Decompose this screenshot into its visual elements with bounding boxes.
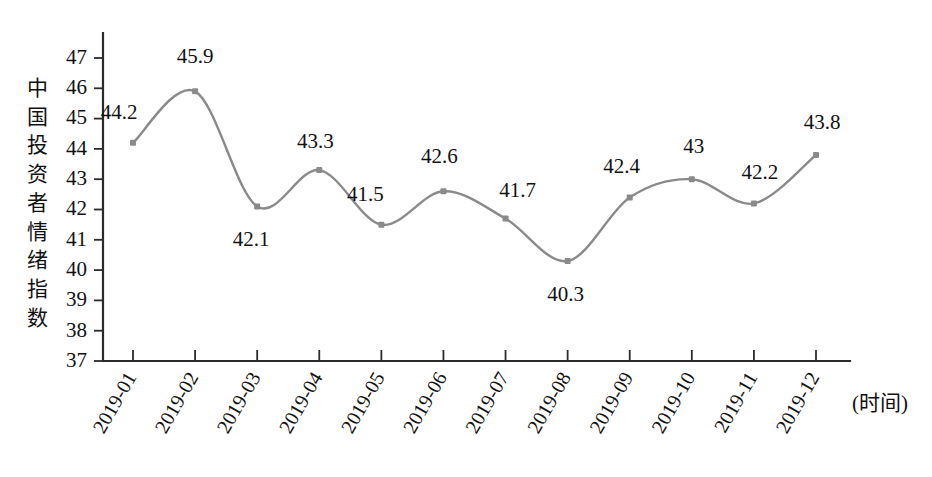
- x-tick-label: 2019-12: [771, 368, 823, 437]
- data-point-marker[interactable]: [316, 167, 322, 173]
- y-axis-title-char: 中: [27, 76, 48, 100]
- data-point-label: 43.8: [804, 110, 841, 134]
- data-point-label: 40.3: [547, 282, 584, 306]
- data-point-marker[interactable]: [192, 88, 198, 94]
- data-point-marker[interactable]: [503, 216, 509, 222]
- data-point-marker[interactable]: [813, 152, 819, 158]
- chart-container: 3738394041424344454647 中国投资者情绪指数 2019-01…: [0, 0, 932, 477]
- data-point-marker[interactable]: [565, 258, 571, 264]
- y-tick-label: 44: [66, 136, 88, 160]
- data-point-labels: 44.245.942.143.341.542.641.740.342.44342…: [101, 44, 841, 306]
- y-axis-title-char: 国: [27, 105, 48, 129]
- y-tick-label: 45: [66, 105, 87, 129]
- data-point-label: 42.2: [742, 160, 779, 184]
- y-axis-title: 中国投资者情绪指数: [27, 76, 48, 330]
- data-point-label: 42.6: [421, 144, 458, 168]
- y-axis-title-char: 资: [27, 162, 48, 186]
- x-axis-ticks: [133, 350, 816, 361]
- data-point-label: 45.9: [177, 44, 214, 68]
- data-point-label: 44.2: [101, 100, 138, 124]
- x-tick-label: 2019-08: [523, 368, 575, 437]
- data-point-marker[interactable]: [378, 222, 384, 228]
- x-tick-label: 2019-11: [709, 368, 761, 436]
- x-tick-label: 2019-03: [212, 368, 264, 437]
- data-point-marker[interactable]: [627, 194, 633, 200]
- x-tick-label: 2019-02: [150, 368, 202, 437]
- x-tick-label: 2019-04: [274, 368, 326, 437]
- y-tick-label: 39: [66, 287, 87, 311]
- y-tick-label: 37: [66, 348, 87, 372]
- y-axis-title-char: 情: [27, 220, 48, 244]
- y-axis-title-char: 指: [27, 277, 48, 301]
- y-tick-label: 47: [66, 45, 87, 69]
- x-tick-label: 2019-06: [399, 368, 451, 437]
- data-point-label: 42.1: [233, 227, 270, 251]
- data-point-marker[interactable]: [751, 200, 757, 206]
- y-tick-label: 43: [66, 166, 87, 190]
- x-axis-tick-labels: 2019-012019-022019-032019-042019-052019-…: [88, 368, 823, 437]
- data-point-label: 42.4: [603, 154, 640, 178]
- data-point-marker[interactable]: [254, 203, 260, 209]
- data-point-label: 43: [683, 134, 704, 158]
- data-point-marker[interactable]: [440, 188, 446, 194]
- x-tick-label: 2019-05: [336, 368, 388, 437]
- data-point-marker[interactable]: [689, 176, 695, 182]
- line-chart: 3738394041424344454647 中国投资者情绪指数 2019-01…: [0, 0, 932, 477]
- data-point-marker[interactable]: [130, 140, 136, 146]
- data-point-label: 41.7: [499, 178, 536, 202]
- x-tick-label: 2019-07: [461, 368, 513, 437]
- axis-lines: [103, 33, 850, 361]
- x-axis-caption: (时间): [852, 391, 908, 415]
- y-tick-label: 41: [66, 227, 87, 251]
- x-tick-label: 2019-09: [585, 368, 637, 437]
- x-axis-caption-label: (时间): [852, 391, 908, 415]
- y-axis-title-char: 者: [27, 191, 48, 215]
- y-axis-title-char: 投: [27, 133, 48, 157]
- x-tick-label: 2019-01: [88, 368, 140, 437]
- y-axis-tick-labels: 3738394041424344454647: [66, 45, 88, 372]
- x-tick-label: 2019-10: [647, 368, 699, 437]
- chart-axes: [103, 33, 850, 361]
- data-point-label: 43.3: [297, 129, 334, 153]
- y-axis-title-char: 数: [27, 306, 48, 330]
- y-tick-label: 40: [66, 257, 87, 281]
- y-axis-title-char: 绪: [27, 248, 48, 272]
- y-tick-label: 46: [66, 75, 87, 99]
- y-tick-label: 42: [66, 196, 87, 220]
- data-point-label: 41.5: [347, 182, 384, 206]
- y-tick-label: 38: [66, 318, 87, 342]
